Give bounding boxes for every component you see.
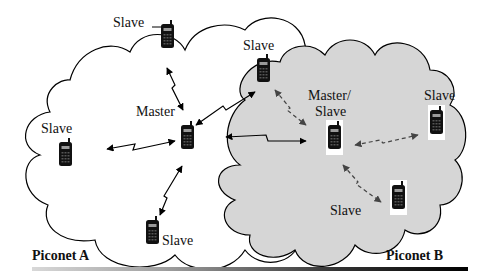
label-b-bottom-slave: Slave: [330, 203, 361, 218]
phone-icon-shared-slave: [257, 54, 270, 82]
phone-icon-master-b: [328, 121, 341, 149]
label-a-left-slave: Slave: [41, 121, 72, 136]
label-a-top-slave: Slave: [113, 15, 144, 30]
divider-bar: [32, 267, 468, 271]
label-shared-slave: Slave: [243, 38, 274, 53]
label-master-b-line1: Master/: [308, 88, 351, 103]
label-piconet-b: Piconet B: [386, 248, 443, 264]
phone-icon-a-bottom: [146, 216, 159, 244]
label-master-b-line2: Slave: [315, 104, 346, 119]
phone-icon-b-bottom: [392, 181, 405, 209]
phone-icon-a-top: [161, 20, 174, 48]
label-master-a: Master: [136, 104, 175, 119]
phone-icon-master-a: [181, 121, 194, 149]
label-piconet-a: Piconet A: [32, 248, 89, 264]
phone-icon-a-left: [59, 138, 72, 166]
phone-icon-b-right: [430, 106, 443, 134]
label-a-bottom-slave: Slave: [162, 233, 193, 248]
label-b-right-slave: Slave: [424, 88, 455, 103]
